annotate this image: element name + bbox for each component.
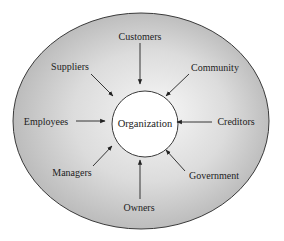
creditors-label: Creditors — [217, 116, 254, 127]
owners-label: Owners — [123, 202, 154, 213]
employees-label: Employees — [24, 116, 69, 127]
stakeholder-diagram: Organization Customers Community Credito… — [0, 0, 284, 241]
government-label: Government — [189, 170, 239, 181]
customers-label: Customers — [119, 31, 162, 42]
suppliers-label: Suppliers — [51, 61, 89, 72]
organization-label: Organization — [118, 118, 173, 129]
managers-label: Managers — [52, 167, 92, 178]
community-label: Community — [191, 62, 239, 73]
